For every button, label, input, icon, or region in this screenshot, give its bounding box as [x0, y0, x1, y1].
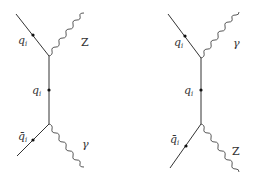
diagram-left: qi qi q̄i Z γ — [16, 13, 89, 167]
arrow-marker-icon — [31, 33, 34, 36]
arrow-marker-icon — [47, 88, 50, 91]
diagram-right: qi qi q̄i γ Z — [168, 12, 240, 172]
arrow-marker-icon — [184, 144, 187, 147]
label-propagator: qi — [184, 84, 193, 98]
label-propagator: qi — [32, 84, 41, 98]
boson-wave-top — [201, 12, 239, 58]
label-top-boson: Z — [81, 36, 89, 49]
boson-wave-bottom — [49, 124, 84, 167]
label-incoming-quark: qi — [18, 34, 27, 48]
arrow-marker-icon — [31, 138, 34, 141]
boson-wave-top — [49, 13, 84, 56]
arrow-marker-icon — [183, 34, 186, 37]
label-bottom-boson: γ — [82, 138, 89, 151]
label-incoming-antiquark: q̄i — [18, 130, 27, 144]
label-bottom-boson: Z — [232, 145, 240, 158]
label-incoming-antiquark: q̄i — [170, 133, 179, 147]
arrow-marker-icon — [199, 88, 202, 91]
label-top-boson: γ — [233, 37, 240, 50]
feynman-diagrams: qi qi q̄i Z γ qi qi q̄i γ Z — [0, 0, 257, 180]
label-incoming-quark: qi — [174, 36, 183, 50]
